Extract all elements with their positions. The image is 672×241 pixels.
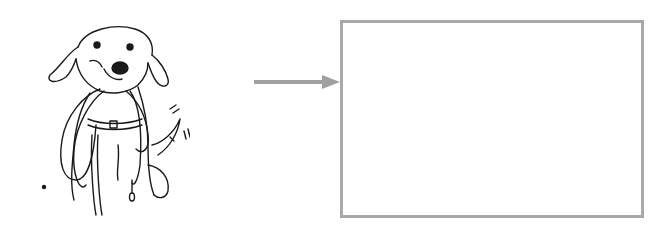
empty-answer-box bbox=[340, 20, 644, 218]
right-arrow-icon bbox=[254, 72, 342, 92]
dog-with-leash-illustration bbox=[30, 15, 190, 220]
